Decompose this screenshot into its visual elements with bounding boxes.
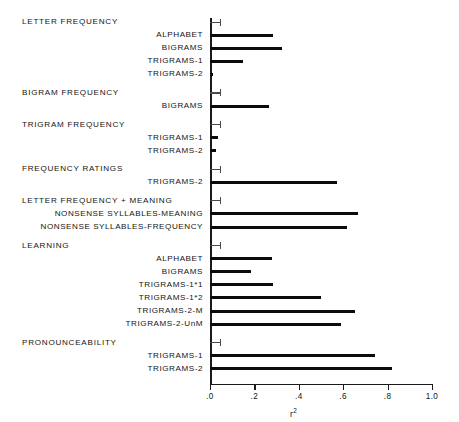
data-row-label: NONSENSE SYLLABLES-FREQUENCY [0, 220, 209, 234]
x-tick-label: 1.0 [426, 392, 439, 401]
data-row-label: TRIGRAMS-1 [0, 349, 209, 363]
data-row-label: ALPHABET [0, 28, 209, 42]
bar [210, 73, 213, 76]
x-axis-line [210, 384, 433, 385]
group-header-label: LETTER FREQUENCY + MEANING [22, 194, 207, 208]
group-tick-mark [210, 245, 221, 246]
group-tick-mark [210, 169, 221, 170]
x-tick [388, 384, 389, 390]
group-header-label: LEARNING [22, 239, 207, 253]
group-header-label: PRONOUNCEABILITY [22, 336, 207, 350]
group-header-label: TRIGRAM FREQUENCY [22, 118, 207, 132]
group-tick-mark [210, 92, 221, 93]
bar [210, 60, 243, 63]
bar [210, 226, 347, 229]
data-row-label: TRIGRAMS-2 [0, 67, 209, 81]
bar [210, 136, 218, 139]
x-tick-label: .8 [384, 392, 392, 401]
bar [210, 47, 282, 50]
data-row-label: TRIGRAMS-2 [0, 175, 209, 189]
x-tick-label: .0 [206, 392, 214, 401]
plot-area: .0.2.4.6.81.0 r2 [210, 18, 459, 422]
group-tick-mark [210, 200, 221, 201]
bar [210, 283, 273, 286]
data-row-label: TRIGRAMS-1 [0, 54, 209, 68]
bar [210, 34, 273, 37]
data-row-label: TRIGRAMS-1*2 [0, 291, 209, 305]
data-row-label: BIGRAMS [0, 99, 209, 113]
x-tick-label: .2 [251, 392, 259, 401]
group-tick-mark [210, 124, 221, 125]
data-row-label: BIGRAMS [0, 41, 209, 55]
group-header-label: FREQUENCY RATINGS [22, 162, 207, 176]
bar [210, 257, 272, 260]
data-row-label: BIGRAMS [0, 265, 209, 279]
bar [210, 323, 341, 326]
bar [210, 149, 216, 152]
x-tick [432, 384, 433, 390]
chart-figure: LETTER FREQUENCYALPHABETBIGRAMSTRIGRAMS-… [0, 0, 459, 422]
x-tick [299, 384, 300, 390]
bar [210, 367, 392, 370]
data-row-label: NONSENSE SYLLABLES-MEANING [0, 207, 209, 221]
data-row-label: TRIGRAMS-1*1 [0, 278, 209, 292]
bar [210, 310, 355, 313]
data-row-label: TRIGRAMS-2-M [0, 304, 209, 318]
x-tick [210, 384, 211, 390]
group-tick-mark [210, 342, 221, 343]
x-axis-label: r2 [290, 407, 297, 419]
x-tick-label: .6 [339, 392, 347, 401]
x-tick [343, 384, 344, 390]
bar [210, 105, 269, 108]
group-header-label: LETTER FREQUENCY [22, 15, 207, 29]
data-row-label: TRIGRAMS-2 [0, 362, 209, 376]
data-row-label: TRIGRAMS-2-UnM [0, 317, 209, 331]
group-tick-mark [210, 22, 221, 23]
data-row-label: ALPHABET [0, 252, 209, 266]
data-row-label: TRIGRAMS-1 [0, 131, 209, 145]
bar [210, 296, 321, 299]
x-axis-label-exponent: 2 [293, 407, 297, 414]
x-tick [254, 384, 255, 390]
x-tick-label: .4 [295, 392, 303, 401]
group-header-label: BIGRAM FREQUENCY [22, 86, 207, 100]
bar [210, 181, 337, 184]
data-row-label: TRIGRAMS-2 [0, 144, 209, 158]
bar [210, 270, 251, 273]
bar [210, 354, 375, 357]
bar [210, 212, 358, 215]
